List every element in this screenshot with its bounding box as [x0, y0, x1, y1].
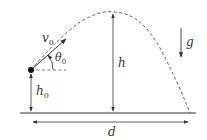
angle-arc: [48, 55, 53, 70]
projectile-diagram: v0 θ0 h0 h g d: [0, 0, 207, 140]
initial-height-label: h0: [36, 84, 49, 100]
gravity-label: g: [186, 35, 194, 49]
velocity-label: v0: [42, 31, 54, 47]
angle-label: θ0: [55, 51, 66, 66]
distance-label: d: [108, 125, 116, 139]
launch-point: [28, 67, 34, 73]
max-height-label: h: [118, 56, 126, 70]
